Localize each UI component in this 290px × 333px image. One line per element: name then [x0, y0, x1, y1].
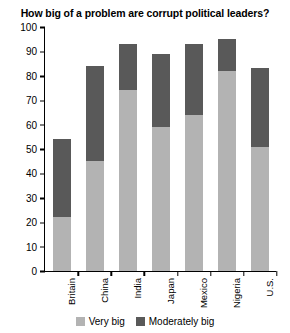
bar-segment-very-big[interactable] [119, 90, 137, 271]
bar-segment-moderately-big[interactable] [86, 66, 104, 161]
legend-item[interactable]: Moderately big [136, 316, 215, 327]
y-axis-tick-label: 60 [26, 118, 37, 131]
chart-legend: Very bigModerately big [0, 316, 290, 327]
x-axis-label: China [99, 278, 110, 303]
x-axis-tick-mark [111, 271, 112, 276]
bar-segment-moderately-big[interactable] [185, 44, 203, 115]
legend-label: Very big [89, 316, 125, 327]
bar-segment-moderately-big[interactable] [53, 139, 71, 217]
y-axis-tick-label: 80 [26, 69, 37, 82]
stacked-bar[interactable] [53, 139, 71, 271]
legend-swatch-very-big [76, 317, 85, 326]
y-axis-tick-label: 100 [20, 21, 37, 34]
bar-segment-moderately-big[interactable] [251, 68, 269, 146]
legend-swatch-moderately-big [136, 317, 145, 326]
legend-label: Moderately big [149, 316, 215, 327]
y-axis-tick-mark [40, 51, 45, 52]
stacked-bar[interactable] [152, 54, 170, 271]
bar-segment-very-big[interactable] [218, 71, 236, 271]
bar-segment-very-big[interactable] [152, 127, 170, 271]
y-axis-tick-label: 10 [26, 240, 37, 253]
y-axis-tick-mark [40, 246, 45, 247]
chart-figure: How big of a problem are corrupt politic… [0, 0, 290, 333]
y-axis-tick-label: 0 [31, 265, 37, 278]
y-axis-tick-mark [40, 198, 45, 199]
x-axis-tick-mark [177, 271, 178, 276]
stacked-bar[interactable] [251, 68, 269, 271]
stacked-bar[interactable] [86, 66, 104, 271]
y-axis-tick-label: 70 [26, 94, 37, 107]
bar-segment-very-big[interactable] [251, 147, 269, 271]
y-axis-tick-mark [40, 222, 45, 223]
x-axis-label: Japan [165, 278, 176, 304]
x-axis-label: Britain [66, 278, 77, 305]
legend-item[interactable]: Very big [76, 316, 125, 327]
x-axis-tick-mark [276, 271, 277, 276]
bar-segment-very-big[interactable] [86, 161, 104, 271]
x-axis-tick-mark [77, 271, 78, 276]
y-axis-tick-label: 20 [26, 216, 37, 229]
chart-title: How big of a problem are corrupt politic… [0, 7, 290, 19]
bar-segment-moderately-big[interactable] [152, 54, 170, 127]
stacked-bar[interactable] [185, 44, 203, 271]
x-axis-label: Nigeria [231, 278, 242, 308]
y-axis-tick-mark [40, 100, 45, 101]
x-axis-tick-mark [243, 271, 244, 276]
stacked-bar[interactable] [119, 44, 137, 271]
x-axis-label: Mexico [198, 278, 209, 308]
y-axis-tick-label: 30 [26, 191, 37, 204]
plot-area: 0102030405060708090100 BritainChinaIndia… [44, 28, 276, 272]
y-axis-tick-mark [40, 173, 45, 174]
y-axis-tick-label: 90 [26, 45, 37, 58]
y-axis-tick-mark [40, 271, 45, 272]
y-axis-tick-label: 40 [26, 167, 37, 180]
x-axis-tick-mark [210, 271, 211, 276]
bar-segment-very-big[interactable] [185, 115, 203, 271]
x-axis-label: U.S. [264, 278, 275, 296]
x-axis-tick-mark [144, 271, 145, 276]
y-axis-tick-label: 50 [26, 143, 37, 156]
y-axis-tick-mark [40, 149, 45, 150]
x-axis-label: India [132, 278, 143, 299]
bar-segment-very-big[interactable] [53, 217, 71, 271]
bar-segment-moderately-big[interactable] [218, 39, 236, 71]
y-axis-tick-mark [40, 124, 45, 125]
bar-segment-moderately-big[interactable] [119, 44, 137, 90]
y-axis-tick-mark [40, 27, 45, 28]
y-axis-tick-mark [40, 76, 45, 77]
stacked-bar[interactable] [218, 39, 236, 271]
